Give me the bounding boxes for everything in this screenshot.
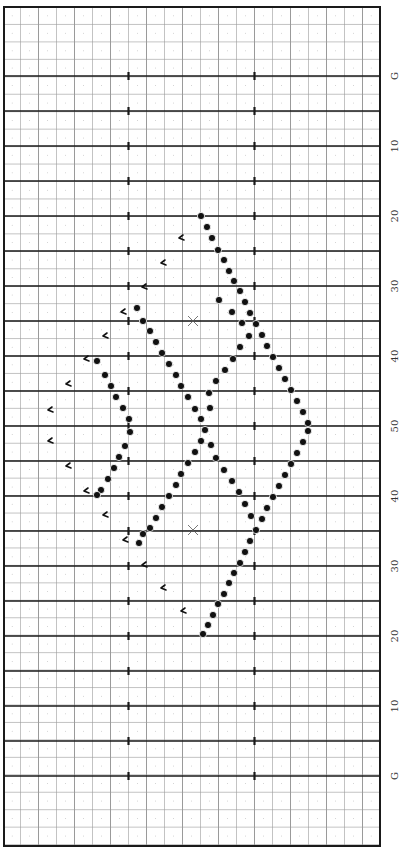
grid-dot xyxy=(29,766,30,767)
grid-dot xyxy=(47,574,48,575)
grid-dot xyxy=(353,85,354,86)
grid-dot xyxy=(227,521,228,522)
grid-dot xyxy=(173,68,174,69)
grid-dot xyxy=(209,766,210,767)
grid-dot xyxy=(173,382,174,383)
grid-dot xyxy=(371,451,372,452)
performer-dot xyxy=(304,427,311,434)
grid-dot xyxy=(299,277,300,278)
grid-dot xyxy=(12,766,13,767)
grid-dot xyxy=(137,207,138,208)
grid-dot xyxy=(137,643,138,644)
grid-dot xyxy=(227,434,228,435)
grid-dot xyxy=(173,85,174,86)
grid-dot xyxy=(371,486,372,487)
grid-dot xyxy=(101,818,102,819)
grid-dot xyxy=(317,434,318,435)
grid-dot xyxy=(191,591,192,592)
grid-dot xyxy=(299,364,300,365)
yard-line-label: 30 xyxy=(389,280,400,293)
grid-dot xyxy=(209,242,210,243)
grid-dot xyxy=(137,800,138,801)
grid-dot xyxy=(137,85,138,86)
performer-dot xyxy=(230,569,237,576)
grid-dot xyxy=(65,382,66,383)
grid-dot xyxy=(227,818,228,819)
grid-dot xyxy=(335,382,336,383)
grid-dot xyxy=(227,731,228,732)
grid-dot xyxy=(12,591,13,592)
grid-dot xyxy=(317,68,318,69)
grid-dot xyxy=(155,434,156,435)
grid-dot xyxy=(101,609,102,610)
grid-dot xyxy=(65,469,66,470)
grid-dot xyxy=(29,382,30,383)
grid-dot xyxy=(317,417,318,418)
grid-dot xyxy=(299,469,300,470)
grid-dot xyxy=(29,155,30,156)
grid-dot xyxy=(155,731,156,732)
grid-dot xyxy=(227,364,228,365)
grid-dot xyxy=(101,137,102,138)
flag-icon xyxy=(103,333,108,338)
grid-dot xyxy=(155,155,156,156)
grid-dot xyxy=(299,539,300,540)
performer-dot xyxy=(112,393,119,400)
grid-dot xyxy=(335,556,336,557)
grid-dot xyxy=(299,609,300,610)
grid-dot xyxy=(137,155,138,156)
performer-dot xyxy=(236,287,243,294)
grid-dot xyxy=(317,15,318,16)
grid-dot xyxy=(119,120,120,121)
grid-dot xyxy=(65,172,66,173)
grid-dot xyxy=(137,294,138,295)
grid-dot xyxy=(353,835,354,836)
grid-dot xyxy=(101,382,102,383)
grid-dot xyxy=(335,277,336,278)
flag-icon xyxy=(121,309,126,314)
grid-dot xyxy=(119,329,120,330)
grid-dot xyxy=(245,696,246,697)
performer-dot xyxy=(229,355,236,362)
performer-dot xyxy=(269,493,276,500)
grid-dot xyxy=(191,609,192,610)
grid-dot xyxy=(281,260,282,261)
grid-dot xyxy=(245,539,246,540)
grid-dot xyxy=(281,50,282,51)
performer-dot xyxy=(139,317,146,324)
grid-dot xyxy=(101,225,102,226)
grid-dot xyxy=(155,347,156,348)
performer-dot xyxy=(177,470,184,477)
grid-dot xyxy=(335,102,336,103)
grid-dot xyxy=(191,486,192,487)
grid-dot xyxy=(335,748,336,749)
grid-dot xyxy=(173,277,174,278)
grid-dot xyxy=(353,242,354,243)
grid-dot xyxy=(209,364,210,365)
grid-dot xyxy=(173,556,174,557)
grid-dot xyxy=(281,451,282,452)
grid-dot xyxy=(335,294,336,295)
grid-dot xyxy=(83,748,84,749)
grid-dot xyxy=(335,364,336,365)
performer-dot xyxy=(269,353,276,360)
grid-dot xyxy=(47,504,48,505)
grid-dot xyxy=(173,504,174,505)
grid-dot xyxy=(191,277,192,278)
grid-dot xyxy=(191,50,192,51)
grid-dot xyxy=(299,417,300,418)
performer-dot xyxy=(199,630,206,637)
grid-dot xyxy=(29,556,30,557)
grid-dot xyxy=(65,731,66,732)
grid-dot xyxy=(317,120,318,121)
grid-dot xyxy=(281,312,282,313)
grid-dot xyxy=(263,294,264,295)
grid-dot xyxy=(47,469,48,470)
grid-dot xyxy=(245,33,246,34)
grid-dot xyxy=(263,50,264,51)
grid-dot xyxy=(47,155,48,156)
grid-dot xyxy=(335,818,336,819)
grid-dot xyxy=(209,783,210,784)
grid-dot xyxy=(137,312,138,313)
grid-dot xyxy=(29,399,30,400)
